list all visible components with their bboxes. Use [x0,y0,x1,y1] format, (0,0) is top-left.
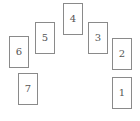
card-position-1: 1 [112,77,132,109]
card-number: 5 [42,33,48,43]
card-position-5: 5 [35,22,55,54]
card-position-7: 7 [18,73,38,105]
card-position-3: 3 [88,22,108,54]
card-number: 6 [16,47,22,57]
card-number: 7 [25,84,31,94]
card-number: 1 [119,88,125,98]
card-number: 4 [70,14,76,24]
card-number: 2 [119,49,125,59]
card-position-6: 6 [9,36,29,68]
card-position-2: 2 [112,38,132,70]
card-number: 3 [95,33,101,43]
card-position-4: 4 [63,3,83,35]
